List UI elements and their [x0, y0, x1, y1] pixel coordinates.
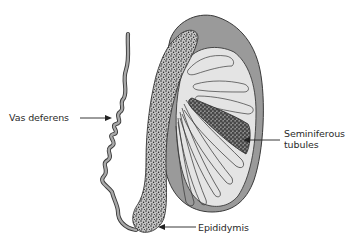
- label-seminiferous-line1: Seminiferous: [284, 128, 345, 139]
- label-seminiferous-line2: tubules: [284, 139, 345, 150]
- testis-diagram: Vas deferens Seminiferous tubules Epidid…: [0, 0, 357, 241]
- label-vas-deferens: Vas deferens: [9, 112, 69, 123]
- vas-deferens-pointer: [80, 115, 112, 121]
- epididymis-pointer: [158, 224, 196, 230]
- label-seminiferous-tubules: Seminiferous tubules: [284, 128, 345, 150]
- label-epididymis: Epididymis: [198, 222, 249, 233]
- testis-interior: [176, 47, 256, 206]
- vas-deferens: [102, 34, 136, 230]
